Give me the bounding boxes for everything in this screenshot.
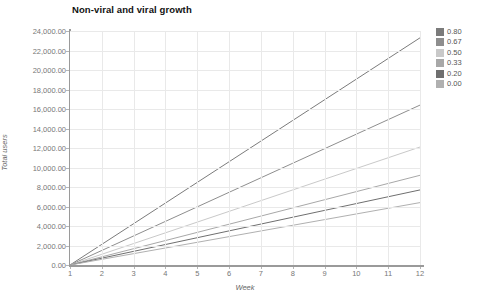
- gridline-vertical: [325, 31, 326, 265]
- legend-label: 0.67: [447, 38, 462, 46]
- gridline-horizontal: [70, 168, 420, 169]
- x-axis-tick-label: 1: [68, 269, 72, 278]
- gridline-vertical: [388, 31, 389, 265]
- x-axis-tick-label: 10: [352, 269, 360, 278]
- legend-item-0.80[interactable]: 0.80: [436, 28, 462, 36]
- chart-container: Non-viral and viral growth 24,000.0022,0…: [0, 0, 480, 305]
- gridline-horizontal: [70, 207, 420, 208]
- legend-label: 0.33: [447, 59, 462, 67]
- legend-item-0.33[interactable]: 0.33: [436, 59, 462, 67]
- legend: 0.800.670.500.330.200.00: [436, 28, 462, 88]
- gridline-horizontal: [70, 51, 420, 52]
- x-axis-tick-label: 4: [163, 269, 167, 278]
- series-line-0.80: [70, 38, 420, 265]
- legend-item-0.20[interactable]: 0.20: [436, 70, 462, 78]
- legend-label: 0.20: [447, 70, 462, 78]
- legend-swatch-icon: [436, 70, 444, 78]
- gridline-vertical: [293, 31, 294, 265]
- legend-swatch-icon: [436, 38, 444, 46]
- gridline-horizontal: [70, 90, 420, 91]
- gridline-vertical: [229, 31, 230, 265]
- x-axis-tick-label: 6: [227, 269, 231, 278]
- x-axis-tick-label: 11: [384, 269, 392, 278]
- gridline-vertical: [356, 31, 357, 265]
- legend-swatch-icon: [436, 80, 444, 88]
- gridline-horizontal: [70, 246, 420, 247]
- gridline-horizontal: [70, 31, 420, 32]
- gridline-vertical: [197, 31, 198, 265]
- series-line-0.00: [70, 203, 420, 265]
- legend-item-0.00[interactable]: 0.00: [436, 80, 462, 88]
- series-line-0.20: [70, 190, 420, 265]
- x-axis-tick-label: 3: [132, 269, 136, 278]
- gridline-vertical: [261, 31, 262, 265]
- legend-label: 0.80: [447, 28, 462, 36]
- x-axis-tick-label: 12: [416, 269, 424, 278]
- gridline-horizontal: [70, 129, 420, 130]
- gridline-horizontal: [70, 187, 420, 188]
- gridline-vertical: [102, 31, 103, 265]
- x-axis-tick-label: 5: [195, 269, 199, 278]
- legend-label: 0.50: [447, 49, 462, 57]
- gridline-horizontal: [70, 226, 420, 227]
- plot-area: [70, 31, 420, 265]
- gridline-horizontal: [70, 148, 420, 149]
- y-axis-title: Total users: [0, 134, 9, 170]
- legend-item-0.50[interactable]: 0.50: [436, 49, 462, 57]
- x-axis-tick-label: 2: [100, 269, 104, 278]
- legend-swatch-icon: [436, 49, 444, 57]
- series-line-0.33: [70, 175, 420, 265]
- legend-swatch-icon: [436, 59, 444, 67]
- x-axis-tick-label: 7: [259, 269, 263, 278]
- gridline-vertical: [134, 31, 135, 265]
- x-axis-tick-label: 8: [291, 269, 295, 278]
- legend-label: 0.00: [447, 80, 462, 88]
- gridline-horizontal: [70, 70, 420, 71]
- gridline-vertical: [420, 31, 421, 265]
- legend-item-0.67[interactable]: 0.67: [436, 38, 462, 46]
- legend-swatch-icon: [436, 28, 444, 36]
- x-axis-title: Week: [235, 283, 254, 292]
- x-axis-line: [69, 265, 424, 267]
- x-axis-tick-label: 9: [322, 269, 326, 278]
- gridline-horizontal: [70, 109, 420, 110]
- gridline-vertical: [165, 31, 166, 265]
